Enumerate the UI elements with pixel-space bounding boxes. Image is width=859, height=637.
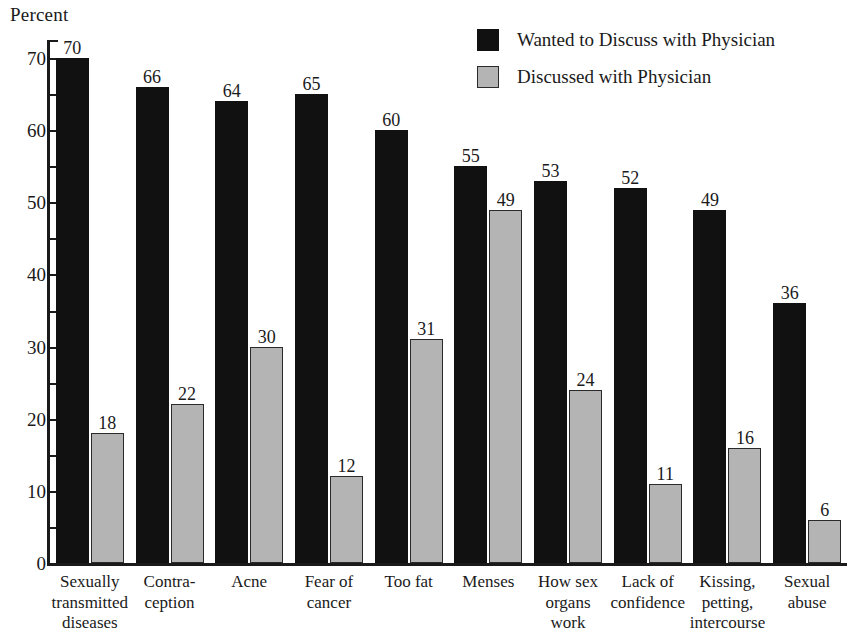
- chart-legend: Wanted to Discuss with Physician Discuss…: [477, 28, 847, 102]
- bar-wanted: 60: [375, 130, 408, 563]
- bar-wanted: 64: [215, 101, 248, 563]
- bar-value-label: 49: [497, 191, 515, 209]
- bar-value-label: 49: [701, 191, 719, 209]
- bar-group: 7018: [50, 40, 130, 563]
- bar-discussed: 12: [330, 476, 363, 563]
- bar-value-label: 18: [98, 414, 116, 432]
- category-label-line: Sexually: [50, 572, 130, 593]
- bar-value-label: 6: [820, 501, 829, 519]
- category-label: How sexorganswork: [528, 572, 608, 634]
- category-label: Fear ofcancer: [289, 572, 369, 613]
- bar-value-label: 30: [258, 328, 276, 346]
- y-axis-title: Percent: [10, 4, 68, 26]
- category-label-line: Sexual: [767, 572, 847, 593]
- bar-value-label: 66: [143, 68, 161, 86]
- bar-wanted: 55: [454, 166, 487, 563]
- bar-discussed: 6: [808, 520, 841, 563]
- category-label-line: confidence: [608, 593, 688, 614]
- y-tick-major: [50, 563, 63, 565]
- bar-value-label: 65: [302, 75, 320, 93]
- legend-label-discussed: Discussed with Physician: [517, 66, 711, 88]
- bar-value-label: 36: [781, 284, 799, 302]
- bar-wanted: 52: [614, 188, 647, 563]
- bar-value-label: 52: [621, 169, 639, 187]
- bar-group: 5549: [449, 40, 529, 563]
- y-tick-label: 20: [6, 409, 46, 428]
- y-tick-label: 0: [6, 554, 46, 573]
- category-label: Contra-ception: [130, 572, 210, 613]
- bar-wanted: 70: [56, 58, 89, 563]
- bars-layer: 701866226430651260315549532452114916366: [50, 40, 847, 563]
- category-label-line: transmitted: [50, 593, 130, 614]
- bar-discussed: 30: [250, 347, 283, 563]
- y-tick-label: 50: [6, 193, 46, 212]
- category-label: Too fat: [369, 572, 449, 593]
- bar-value-label: 16: [736, 429, 754, 447]
- category-label-line: Lack of: [608, 572, 688, 593]
- bar-wanted: 65: [295, 94, 328, 563]
- bar-discussed: 16: [728, 448, 761, 563]
- bar-discussed: 18: [91, 433, 124, 563]
- x-axis-line: [47, 563, 847, 566]
- category-label-line: Kissing,: [688, 572, 768, 593]
- bar-group: 4916: [688, 40, 768, 563]
- legend-swatch-gray-icon: [477, 66, 499, 88]
- legend-item-discussed: Discussed with Physician: [477, 65, 847, 89]
- legend-swatch-black-icon: [477, 29, 499, 51]
- category-label-line: How sex: [528, 572, 608, 593]
- bar-group: 5211: [608, 40, 688, 563]
- bar-chart: Percent 010203040506070 7018662264306512…: [0, 0, 859, 637]
- legend-item-wanted: Wanted to Discuss with Physician: [477, 28, 847, 52]
- category-label-line: diseases: [50, 613, 130, 634]
- category-label: Sexualabuse: [767, 572, 847, 613]
- bar-wanted: 36: [773, 303, 806, 563]
- bar-value-label: 11: [657, 465, 674, 483]
- bar-value-label: 12: [337, 457, 355, 475]
- bar-group: 6430: [209, 40, 289, 563]
- category-label-line: Too fat: [369, 572, 449, 593]
- category-label: Sexuallytransmitteddiseases: [50, 572, 130, 634]
- y-tick-label: 60: [6, 121, 46, 140]
- y-tick-label: 40: [6, 265, 46, 284]
- category-label-line: Menses: [449, 572, 529, 593]
- category-label-line: intercourse: [688, 613, 768, 634]
- bar-discussed: 22: [171, 404, 204, 563]
- y-tick-label: 30: [6, 337, 46, 356]
- legend-label-wanted: Wanted to Discuss with Physician: [517, 29, 775, 51]
- category-label: Lack ofconfidence: [608, 572, 688, 613]
- bar-wanted: 53: [534, 181, 567, 563]
- bar-value-label: 70: [63, 39, 81, 57]
- bar-discussed: 31: [410, 339, 443, 563]
- category-label-line: organs: [528, 593, 608, 614]
- category-label-line: Acne: [209, 572, 289, 593]
- bar-wanted: 49: [693, 210, 726, 563]
- bar-wanted: 66: [136, 87, 169, 563]
- bar-group: 5324: [528, 40, 608, 563]
- category-label: Acne: [209, 572, 289, 593]
- bar-value-label: 22: [178, 385, 196, 403]
- x-axis-category-labels: SexuallytransmitteddiseasesContra-ceptio…: [50, 572, 847, 637]
- bar-group: 6622: [130, 40, 210, 563]
- category-label: Menses: [449, 572, 529, 593]
- bar-group: 6031: [369, 40, 449, 563]
- category-label-line: Fear of: [289, 572, 369, 593]
- bar-group: 366: [767, 40, 847, 563]
- bar-discussed: 24: [569, 390, 602, 563]
- bar-value-label: 24: [577, 371, 595, 389]
- bar-value-label: 55: [462, 147, 480, 165]
- category-label-line: ception: [130, 593, 210, 614]
- y-tick-label: 10: [6, 481, 46, 500]
- category-label-line: cancer: [289, 593, 369, 614]
- bar-value-label: 31: [417, 320, 435, 338]
- category-label-line: petting,: [688, 593, 768, 614]
- category-label: Kissing,petting,intercourse: [688, 572, 768, 634]
- bar-group: 6512: [289, 40, 369, 563]
- bar-discussed: 49: [489, 210, 522, 563]
- category-label-line: work: [528, 613, 608, 634]
- bar-discussed: 11: [649, 484, 682, 563]
- category-label-line: Contra-: [130, 572, 210, 593]
- category-label-line: abuse: [767, 593, 847, 614]
- bar-value-label: 64: [223, 82, 241, 100]
- bar-value-label: 60: [382, 111, 400, 129]
- y-tick-label: 70: [6, 49, 46, 68]
